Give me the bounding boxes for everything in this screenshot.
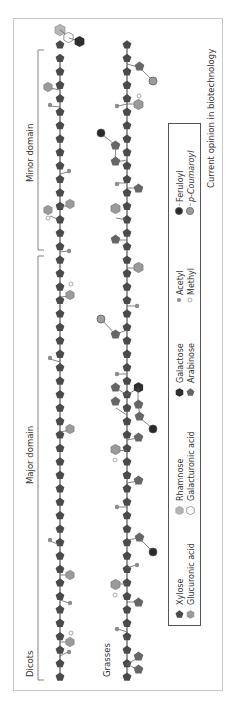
figure-credit: Current opinion in biotechnology bbox=[206, 49, 216, 188]
acetyl-icon bbox=[177, 298, 181, 302]
p-coumaroyl-icon bbox=[97, 315, 105, 323]
feruloyl-icon bbox=[97, 129, 105, 137]
acetyl-icon bbox=[67, 169, 71, 173]
major-domain-label: Major domain bbox=[25, 426, 35, 484]
acetyl-icon bbox=[67, 249, 71, 253]
feruloyl-icon bbox=[149, 425, 157, 433]
legend-label-xylose: Xylose bbox=[176, 579, 185, 606]
acetyl-icon bbox=[48, 538, 52, 542]
legend: Xylose Glucuronic acid Rhamnose Galactur… bbox=[169, 124, 201, 626]
legend-label-glucuronic-acid: Glucuronic acid bbox=[187, 543, 196, 605]
legend-label-feruloyl: Feruloyl bbox=[176, 170, 185, 202]
methyl-icon bbox=[69, 631, 73, 635]
legend-label-acetyl: Acetyl bbox=[176, 270, 185, 295]
acetyl-icon bbox=[115, 182, 119, 186]
legend-label-p-coumaroyl: p-Coumaroyl bbox=[187, 150, 196, 203]
acetyl-icon bbox=[135, 304, 139, 308]
p-coumaroyl-icon bbox=[186, 207, 193, 214]
feruloyl-icon bbox=[175, 207, 182, 214]
methyl-icon bbox=[113, 458, 117, 462]
methyl-icon bbox=[188, 298, 192, 302]
methyl-icon bbox=[113, 593, 117, 597]
acetyl-icon bbox=[48, 356, 52, 360]
legend-label-arabinose: Arabinose bbox=[187, 343, 196, 383]
galacturonic-acid-icon bbox=[187, 506, 195, 515]
acetyl-icon bbox=[115, 372, 119, 376]
legend-label-galactose: Galactose bbox=[176, 343, 185, 383]
legend-label-galacturonic-acid: Galacturonic acid bbox=[187, 431, 196, 501]
acetyl-icon bbox=[67, 650, 71, 654]
acetyl-icon bbox=[68, 601, 72, 605]
xylan-structure-figure: Current opinion in biotechnology Minor d… bbox=[0, 0, 233, 715]
methyl-icon bbox=[137, 94, 141, 98]
methyl-icon bbox=[46, 216, 50, 220]
p-coumaroyl-icon bbox=[149, 77, 157, 85]
acetyl-icon bbox=[135, 563, 139, 567]
galacturonic-acid-icon bbox=[64, 32, 73, 43]
acetyl-icon bbox=[115, 104, 119, 108]
minor-domain-label: Minor domain bbox=[25, 124, 35, 182]
dicots-label: Dicots bbox=[25, 650, 35, 677]
acetyl-icon bbox=[48, 103, 52, 107]
legend-label-methyl: Methyl bbox=[187, 268, 196, 295]
methyl-icon bbox=[69, 282, 73, 286]
feruloyl-icon bbox=[149, 548, 157, 556]
legend-label-rhamnose: Rhamnose bbox=[176, 459, 185, 501]
acetyl-icon bbox=[115, 627, 119, 631]
acetyl-icon bbox=[115, 505, 119, 509]
grasses-label: Grasses bbox=[102, 643, 112, 677]
